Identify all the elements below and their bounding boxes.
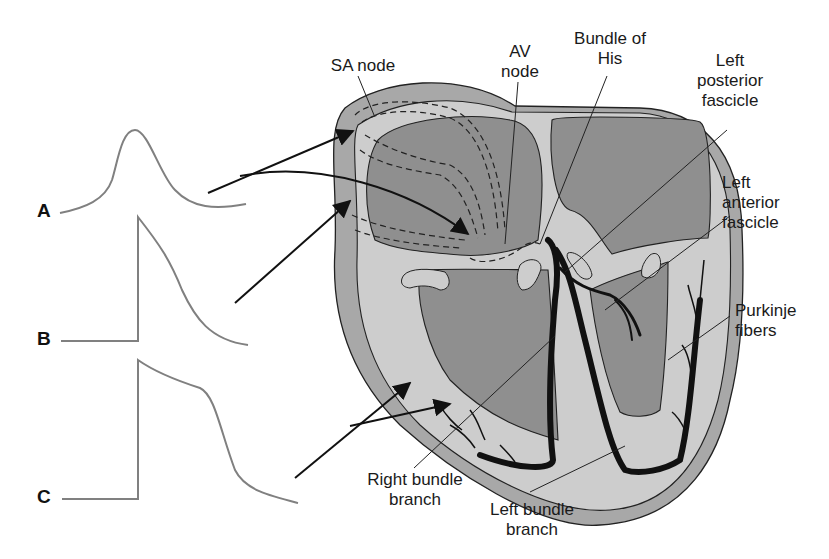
label-left-bundle-branch: Left bundle branch (477, 500, 587, 540)
trace-b (61, 217, 248, 345)
conduction-diagram: A B C SA node AV node Bundle of His Left… (0, 0, 829, 559)
trace-label-b: B (37, 328, 51, 350)
right-bundle-line1: Right bundle (355, 470, 475, 490)
label-av-node: AV node (495, 42, 545, 82)
trace-label-c: C (37, 486, 51, 508)
left-posterior-line2: posterior (685, 71, 775, 91)
label-right-bundle-branch: Right bundle branch (355, 470, 475, 510)
left-anterior-line1: Left (722, 173, 812, 193)
left-posterior-line3: fascicle (685, 91, 775, 111)
label-bundle-of-his: Bundle of His (565, 29, 655, 69)
left-anterior-line3: fascicle (722, 213, 812, 233)
right-bundle-line2: branch (355, 490, 475, 510)
label-sa-node: SA node (318, 56, 408, 76)
bundle-his-line1: Bundle of (565, 29, 655, 49)
trace-c (62, 360, 298, 503)
purkinje-line1: Purkinje (735, 301, 796, 321)
purkinje-line2: fibers (735, 321, 796, 341)
sa-node-text: SA node (331, 56, 395, 75)
left-anterior-line2: anterior (722, 193, 812, 213)
av-node-line2: node (495, 62, 545, 82)
left-bundle-line2: branch (477, 520, 587, 540)
trace-label-a: A (37, 200, 51, 222)
label-purkinje-fibers: Purkinje fibers (735, 301, 796, 341)
label-left-posterior-fascicle: Left posterior fascicle (685, 51, 775, 111)
left-bundle-line1: Left bundle (477, 500, 587, 520)
bundle-his-line2: His (565, 49, 655, 69)
left-posterior-line1: Left (685, 51, 775, 71)
trace-a (60, 130, 246, 213)
av-node-line1: AV (495, 42, 545, 62)
label-left-anterior-fascicle: Left anterior fascicle (722, 173, 812, 233)
